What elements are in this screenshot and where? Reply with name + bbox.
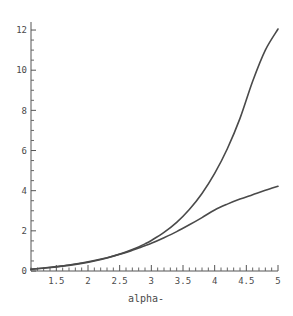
x-axis-tick-label: 2.5 (112, 276, 128, 286)
x-axis-major-ticks (56, 265, 278, 271)
x-axis-tick-label: 3.5 (175, 276, 191, 286)
data-curve (31, 29, 278, 269)
chart-container: 024681012 1.522.533.544.55 alpha- (0, 0, 293, 316)
x-axis-tick-label: 1.5 (48, 276, 64, 286)
y-axis-tick-label: 10 (16, 65, 27, 75)
y-axis-tick-label: 4 (22, 186, 27, 196)
y-axis-tick-labels: 024681012 (16, 25, 27, 276)
data-series-group (31, 29, 278, 269)
y-axis-tick-label: 6 (22, 146, 27, 156)
y-axis-tick-label: 0 (22, 266, 27, 276)
data-curve (31, 186, 278, 269)
x-axis-tick-labels: 1.522.533.544.55 (48, 276, 281, 286)
y-axis-tick-label: 2 (22, 226, 27, 236)
y-axis-tick-label: 12 (16, 25, 27, 35)
y-axis-major-ticks (31, 30, 36, 271)
y-axis: 024681012 (16, 22, 36, 276)
x-axis-tick-label: 4.5 (238, 276, 254, 286)
x-axis-tick-label: 3 (149, 276, 154, 286)
x-axis-tick-label: 2 (85, 276, 90, 286)
x-axis: 1.522.533.544.55 (31, 265, 281, 286)
x-axis-tick-label: 5 (275, 276, 280, 286)
y-axis-tick-label: 8 (22, 106, 27, 116)
x-axis-tick-label: 4 (212, 276, 217, 286)
x-axis-title: alpha- (128, 293, 164, 304)
line-chart: 024681012 1.522.533.544.55 alpha- (0, 0, 293, 316)
